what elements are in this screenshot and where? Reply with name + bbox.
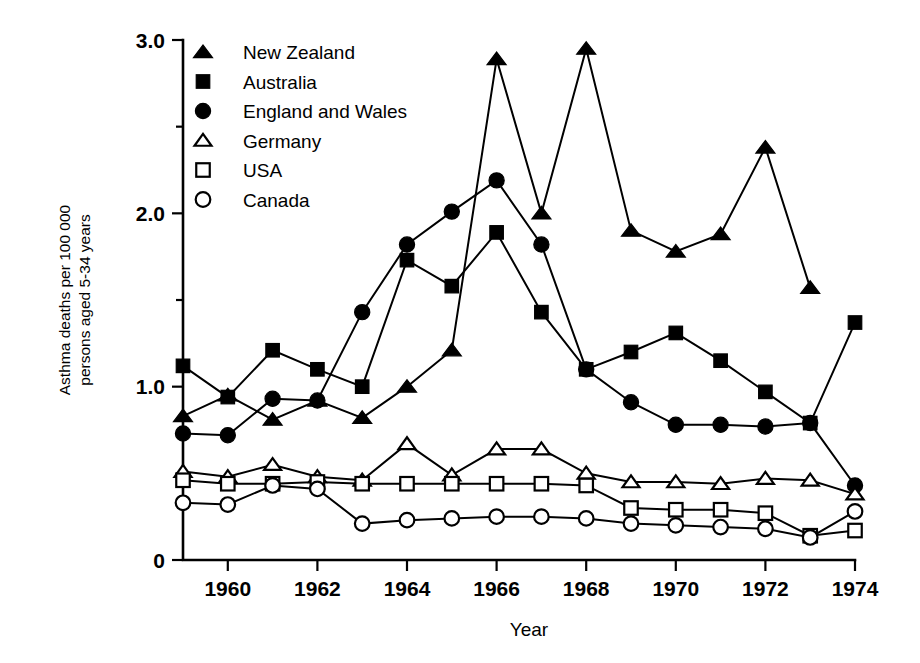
marker-square-filled <box>714 354 728 368</box>
marker-circle-filled <box>220 428 235 443</box>
marker-circle-filled <box>444 204 459 219</box>
marker-circle-filled <box>623 395 638 410</box>
marker-square-open <box>176 474 190 488</box>
marker-triangle-filled <box>194 45 213 58</box>
marker-triangle-filled <box>532 206 551 219</box>
y-axis-title-line1: Asthma deaths per 100 000 <box>56 204 73 395</box>
marker-triangle-filled <box>801 281 820 294</box>
marker-circle-open <box>196 192 211 207</box>
marker-square-open <box>355 477 369 491</box>
marker-square-open <box>579 479 593 493</box>
marker-triangle-filled <box>174 409 193 422</box>
marker-square-filled <box>176 359 190 373</box>
marker-triangle-filled <box>756 140 775 153</box>
series-line <box>183 180 855 485</box>
marker-square-open <box>714 503 728 517</box>
legend-item-new-zealand: New Zealand <box>194 42 355 63</box>
chart-legend: New ZealandAustraliaEngland and WalesGer… <box>194 42 408 211</box>
y-tick-label: 1.0 <box>136 375 165 398</box>
marker-circle-filled <box>265 391 280 406</box>
x-tick-label: 1972 <box>742 577 789 600</box>
marker-circle-open <box>669 518 684 533</box>
marker-circle-filled <box>399 237 414 252</box>
legend-label-text: New Zealand <box>243 42 355 63</box>
legend-label-text: USA <box>243 160 282 181</box>
marker-square-filled <box>221 390 235 404</box>
marker-square-open <box>848 524 862 538</box>
legend-label-text: Australia <box>243 72 317 93</box>
marker-triangle-filled <box>487 52 506 65</box>
marker-circle-filled <box>310 393 325 408</box>
marker-circle-filled <box>713 417 728 432</box>
legend-item-england-and-wales: England and Wales <box>195 101 407 122</box>
x-tick-label: 1968 <box>563 577 610 600</box>
marker-square-filled <box>759 385 773 399</box>
series-line <box>183 232 855 423</box>
marker-triangle-filled <box>442 343 461 356</box>
marker-triangle-filled <box>263 413 282 426</box>
marker-square-open <box>759 506 773 520</box>
marker-circle-open <box>310 482 325 497</box>
marker-square-open <box>624 501 638 515</box>
marker-circle-open <box>579 511 594 526</box>
legend-item-usa: USA <box>196 160 282 181</box>
marker-square-open <box>221 477 235 491</box>
x-tick-label: 1974 <box>832 577 879 600</box>
x-tick-label: 1966 <box>473 577 520 600</box>
marker-circle-open <box>265 478 280 493</box>
chart-figure: Asthma deaths per 100 000persons aged 5-… <box>0 0 920 663</box>
marker-circle-filled <box>175 426 190 441</box>
marker-circle-open <box>400 513 415 528</box>
marker-square-filled <box>196 75 210 89</box>
marker-square-open <box>445 477 459 491</box>
marker-triangle-filled <box>711 227 730 240</box>
marker-triangle-filled <box>577 42 596 55</box>
marker-square-filled <box>266 344 280 358</box>
marker-triangle-open <box>578 467 595 479</box>
marker-circle-filled <box>579 362 594 377</box>
marker-square-filled <box>624 345 638 359</box>
marker-square-filled <box>669 326 683 340</box>
marker-circle-filled <box>489 173 504 188</box>
y-tick-label: 3.0 <box>136 29 165 52</box>
marker-triangle-filled <box>622 224 641 237</box>
marker-circle-open <box>355 516 370 531</box>
x-tick-label: 1960 <box>204 577 251 600</box>
marker-square-filled <box>445 279 459 293</box>
marker-triangle-filled <box>666 244 685 257</box>
marker-square-open <box>535 477 549 491</box>
marker-square-filled <box>535 305 549 319</box>
marker-circle-filled <box>355 305 370 320</box>
legend-item-australia: Australia <box>196 72 317 93</box>
y-axis-title-line2: persons aged 5-34 years <box>76 214 93 386</box>
x-tick-label: 1962 <box>294 577 341 600</box>
marker-circle-filled <box>803 415 818 430</box>
x-tick-label: 1964 <box>384 577 431 600</box>
x-axis-title-text: Year <box>510 619 549 640</box>
marker-square-filled <box>355 380 369 394</box>
marker-circle-open <box>445 511 460 526</box>
marker-circle-open <box>713 520 728 535</box>
marker-circle-filled <box>758 419 773 434</box>
marker-square-filled <box>848 316 862 330</box>
marker-square-open <box>490 477 504 491</box>
marker-circle-open <box>489 509 504 524</box>
marker-square-open <box>400 477 414 491</box>
asthma-deaths-line-chart: Asthma deaths per 100 000persons aged 5-… <box>0 0 920 663</box>
x-axis-ticks: 19601962196419661968197019721974 <box>204 560 878 600</box>
y-tick-label: 2.0 <box>136 202 165 225</box>
marker-triangle-open <box>264 458 281 470</box>
series-england-and-wales <box>175 173 862 493</box>
marker-square-filled <box>311 363 325 377</box>
marker-triangle-open <box>399 437 416 449</box>
y-axis-title: Asthma deaths per 100 000persons aged 5-… <box>56 204 93 395</box>
marker-circle-open <box>624 516 639 531</box>
y-axis-ticks: 01.02.03.0 <box>136 29 183 572</box>
marker-circle-open <box>221 497 236 512</box>
marker-circle-open <box>758 522 773 537</box>
legend-label-text: England and Wales <box>243 101 407 122</box>
x-tick-label: 1970 <box>652 577 699 600</box>
marker-circle-open <box>848 504 863 519</box>
marker-square-filled <box>490 226 504 240</box>
marker-circle-open <box>534 509 549 524</box>
